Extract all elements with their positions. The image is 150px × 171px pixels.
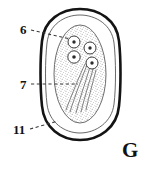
leader-line-11 [30,121,58,129]
panel-letter-label: G [122,140,138,161]
nucleolus-dot [88,46,91,49]
label-7: 7 [20,78,27,91]
embryophore-group [54,25,106,123]
nucleolus-dot [72,40,75,43]
nucleolus-dot [72,55,76,59]
label-11: 11 [13,123,25,136]
label-6: 6 [20,23,27,36]
nucleus [86,57,98,69]
nucleus [68,36,80,48]
nucleolus-dot [90,61,93,64]
nucleus [68,51,80,63]
figure-panel-g: 6 7 11 G [0,0,150,171]
nucleus [84,42,96,54]
